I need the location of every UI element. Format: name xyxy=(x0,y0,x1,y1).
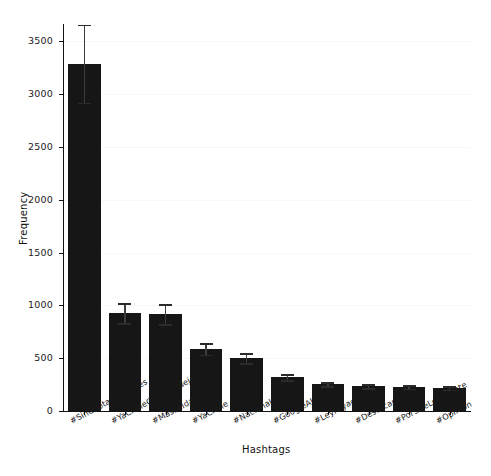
y-tick-mark xyxy=(59,147,63,148)
gridline xyxy=(64,147,470,148)
y-tick-mark xyxy=(59,411,63,412)
y-tick-label-wrapper: 3500 xyxy=(0,35,55,47)
y-axis-title: Frequency xyxy=(18,192,29,245)
error-bar-cap-lower xyxy=(240,363,253,365)
y-axis-line xyxy=(63,24,64,412)
error-bar-line xyxy=(124,303,126,323)
error-bar-cap-lower xyxy=(362,388,375,390)
error-bar-cap-upper xyxy=(200,343,213,345)
error-bar-line xyxy=(165,304,167,324)
x-axis-title: Hashtags xyxy=(242,444,290,455)
error-bar-cap-lower xyxy=(159,324,172,326)
error-bar-cap-upper xyxy=(403,385,416,387)
error-bar-cap-lower xyxy=(403,389,416,391)
error-bar-cap-lower xyxy=(281,380,294,382)
y-tick-label: 1000 xyxy=(28,299,53,310)
y-tick-mark xyxy=(59,253,63,254)
y-tick-mark xyxy=(59,200,63,201)
y-tick-label-wrapper: 2500 xyxy=(0,141,55,153)
error-bar-cap-lower xyxy=(78,103,91,105)
error-bar-cap-upper xyxy=(281,374,294,376)
error-bar-cap-upper xyxy=(118,303,131,305)
gridline xyxy=(64,253,470,254)
bar-chart-figure: 0500100015002000250030003500 #SinCuotasN… xyxy=(0,0,491,476)
y-tick-label: 3500 xyxy=(28,35,53,46)
y-tick-label: 2500 xyxy=(28,141,53,152)
y-tick-label-wrapper: 500 xyxy=(0,352,55,364)
y-tick-mark xyxy=(59,358,63,359)
y-tick-mark xyxy=(59,41,63,42)
y-tick-label: 0 xyxy=(47,405,53,416)
y-tick-label: 1500 xyxy=(28,247,53,258)
y-tick-label-wrapper: 1000 xyxy=(0,299,55,311)
error-bar-cap-upper xyxy=(362,384,375,386)
bar xyxy=(68,64,100,411)
error-bar-cap-lower xyxy=(200,355,213,357)
y-tick-label-wrapper: 1500 xyxy=(0,247,55,259)
y-tick-mark xyxy=(59,94,63,95)
y-tick-label: 3000 xyxy=(28,88,53,99)
gridline xyxy=(64,200,470,201)
error-bar-cap-upper xyxy=(240,353,253,355)
gridline xyxy=(64,94,470,95)
error-bar-cap-upper xyxy=(159,304,172,306)
gridline xyxy=(64,41,470,42)
y-tick-label: 500 xyxy=(34,352,53,363)
y-tick-label-wrapper: 0 xyxy=(0,405,55,417)
error-bar-line xyxy=(84,25,86,103)
error-bar-cap-lower xyxy=(118,323,131,325)
y-tick-label-wrapper: 3000 xyxy=(0,88,55,100)
y-tick-mark xyxy=(59,305,63,306)
y-tick-label: 2000 xyxy=(28,194,53,205)
error-bar-cap-upper xyxy=(78,25,91,27)
error-bar-cap-upper xyxy=(321,382,334,384)
